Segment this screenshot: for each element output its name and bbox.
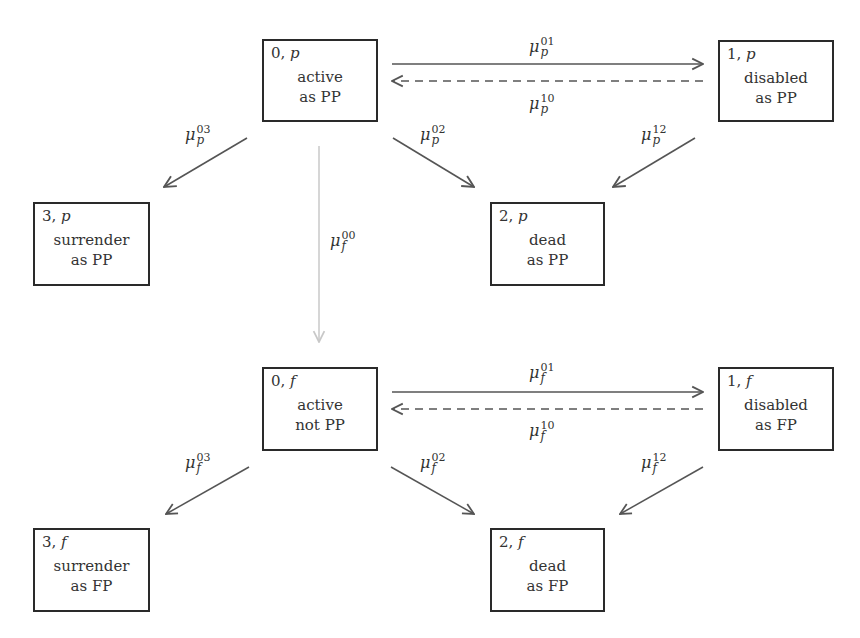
rate-label-mu-f-01: μ01f	[529, 362, 554, 384]
state-label: surrenderas FP	[35, 556, 148, 596]
state-3-p: 3, p surrenderas PP	[33, 202, 150, 286]
state-id: 0, p	[271, 44, 300, 62]
state-1-f: 1, f disabledas FP	[718, 367, 834, 451]
rate-label-mu-p-02: μ02p	[420, 124, 445, 146]
rate-label-mu-f-02: μ02f	[420, 452, 445, 474]
rate-label-mu-p-01: μ01p	[529, 36, 554, 58]
rate-label-mu-p-03: μ03p	[185, 124, 210, 146]
state-id: 0, f	[271, 372, 296, 390]
state-id: 3, f	[42, 533, 67, 551]
arrow-0f-3f	[166, 467, 249, 514]
state-0-p: 0, p activeas PP	[262, 39, 378, 122]
state-label: disabledas PP	[720, 68, 832, 108]
state-id: 1, p	[727, 45, 756, 63]
state-label: activenot PP	[264, 395, 376, 435]
rate-label-mu-f-00: μ00f	[330, 230, 355, 252]
state-label: surrenderas PP	[35, 230, 148, 270]
state-label: deadas FP	[492, 556, 603, 596]
multi-state-diagram: 0, p activeas PP 1, p disabledas PP 3, p…	[0, 0, 860, 638]
rate-label-mu-p-12: μ12p	[641, 124, 666, 146]
state-id: 2, p	[499, 207, 528, 225]
rate-label-mu-p-10: μ10p	[529, 93, 554, 115]
rate-label-mu-f-03: μ03f	[185, 452, 210, 474]
state-label: disabledas FP	[720, 395, 832, 435]
arrow-1f-2f	[620, 467, 703, 514]
state-2-p: 2, p deadas PP	[490, 202, 605, 286]
state-2-f: 2, f deadas FP	[490, 528, 605, 612]
state-label: deadas PP	[492, 230, 603, 270]
state-3-f: 3, f surrenderas FP	[33, 528, 150, 612]
state-id: 3, p	[42, 207, 71, 225]
state-1-p: 1, p disabledas PP	[718, 40, 834, 122]
state-label: activeas PP	[264, 67, 376, 107]
rate-label-mu-f-12: μ12f	[641, 452, 666, 474]
rate-label-mu-f-10: μ10f	[529, 420, 554, 442]
state-0-f: 0, f activenot PP	[262, 367, 378, 451]
state-id: 2, f	[499, 533, 524, 551]
state-id: 1, f	[727, 372, 752, 390]
